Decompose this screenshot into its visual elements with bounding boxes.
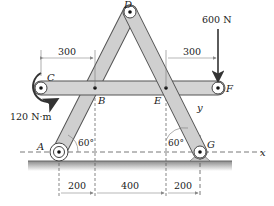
- label-force: 600 N: [202, 14, 231, 25]
- dim-label-top-left: 300: [58, 46, 76, 57]
- pin-g: [194, 146, 206, 158]
- label-x-axis: x: [260, 147, 266, 158]
- frame-diagram: D C F B E A G y x 600 N 120 N·m 60° 60° …: [0, 0, 274, 206]
- label-g: G: [207, 139, 215, 150]
- label-d: D: [123, 0, 132, 10]
- dim-label-bottom-1: 200: [68, 180, 86, 191]
- label-a: A: [36, 141, 44, 152]
- pin-f: [212, 82, 224, 94]
- label-c: C: [47, 72, 55, 83]
- label-angle-right: 60°: [168, 138, 184, 148]
- label-f: F: [225, 83, 234, 94]
- dim-label-top-right: 300: [183, 46, 201, 57]
- label-e: E: [153, 95, 162, 106]
- label-moment: 120 N·m: [10, 111, 52, 122]
- dim-label-bottom-2: 400: [121, 180, 139, 191]
- ground: [28, 161, 232, 171]
- diagram-svg: D C F B E A G y x 600 N 120 N·m 60° 60° …: [0, 0, 274, 206]
- label-b: B: [97, 95, 105, 106]
- pin-a: [50, 143, 68, 161]
- dim-label-bottom-3: 200: [174, 180, 192, 191]
- label-angle-left: 60°: [78, 138, 94, 148]
- pin-c: [35, 82, 47, 94]
- label-y-axis: y: [196, 102, 203, 113]
